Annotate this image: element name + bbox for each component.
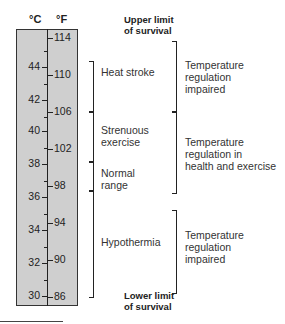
minor-tick-c xyxy=(44,181,47,182)
lower-limit-label: Lower limit of survival xyxy=(124,290,174,312)
reg-normal-line2: regulation in xyxy=(185,148,276,160)
tick-f-90 xyxy=(48,260,53,261)
celsius-header: °C xyxy=(29,13,41,25)
minor-tick-c xyxy=(44,247,47,248)
bracket-regulation-upper xyxy=(172,41,177,112)
tick-c-32 xyxy=(42,263,47,264)
label-f-114: 114 xyxy=(54,32,71,43)
minor-tick-c xyxy=(44,280,47,281)
reg-upper-line1: Temperature xyxy=(185,59,244,71)
label-f-90: 90 xyxy=(54,254,66,265)
tick-f-106 xyxy=(48,112,53,113)
regulation-upper-label: Temperature regulation impaired xyxy=(185,59,244,95)
upper-limit-line2: of survival xyxy=(124,25,174,36)
hypothermia-text: Hypothermia xyxy=(101,236,161,248)
strenuous-exercise-label: Strenuous exercise xyxy=(101,124,149,148)
heat-stroke-label: Heat stroke xyxy=(101,66,155,78)
reg-normal-line1: Temperature xyxy=(185,136,276,148)
label-c-30: 30 xyxy=(14,290,40,301)
tick-f-94 xyxy=(48,223,53,224)
tick-f-114 xyxy=(48,38,53,39)
reg-lower-line1: Temperature xyxy=(185,229,244,241)
bracket-heat-stroke xyxy=(89,61,94,112)
lower-limit-line1: Lower limit xyxy=(124,290,174,301)
label-c-36: 36 xyxy=(14,191,40,202)
minor-tick-c xyxy=(44,148,47,149)
bracket-hypothermia xyxy=(89,191,94,298)
label-c-44: 44 xyxy=(14,61,40,72)
label-c-40: 40 xyxy=(14,125,40,136)
bracket-regulation-normal xyxy=(172,112,177,194)
tick-c-40 xyxy=(42,131,47,132)
minor-tick-c xyxy=(44,84,47,85)
label-c-38: 38 xyxy=(14,158,40,169)
label-f-86: 86 xyxy=(54,291,66,302)
scale-divider xyxy=(47,29,48,306)
reg-lower-line2: regulation xyxy=(185,241,244,253)
normal-text-line1: Normal xyxy=(101,167,135,179)
reg-upper-line3: impaired xyxy=(185,83,244,95)
label-c-34: 34 xyxy=(14,224,40,235)
tick-f-86 xyxy=(48,297,53,298)
tick-c-34 xyxy=(42,230,47,231)
label-c-32: 32 xyxy=(14,257,40,268)
minor-tick-c xyxy=(44,51,47,52)
upper-limit-label: Upper limit of survival xyxy=(124,14,174,36)
lower-limit-line2: of survival xyxy=(124,301,174,312)
regulation-lower-label: Temperature regulation impaired xyxy=(185,229,244,265)
label-c-42: 42 xyxy=(14,94,40,105)
reg-normal-line3: health and exercise xyxy=(185,160,276,172)
normal-text-line2: range xyxy=(101,179,135,191)
reg-upper-line2: regulation xyxy=(185,71,244,83)
regulation-normal-label: Temperature regulation in health and exe… xyxy=(185,136,276,172)
label-f-102: 102 xyxy=(54,143,72,154)
label-f-94: 94 xyxy=(54,217,66,228)
tick-f-102 xyxy=(48,149,53,150)
label-f-106: 106 xyxy=(54,106,72,117)
reg-lower-line3: impaired xyxy=(185,253,244,265)
bracket-strenuous-exercise xyxy=(89,112,94,162)
hypothermia-label: Hypothermia xyxy=(101,236,161,248)
tick-c-30 xyxy=(42,296,47,297)
tick-c-42 xyxy=(42,100,47,101)
tick-c-44 xyxy=(42,67,47,68)
bracket-normal-range xyxy=(89,162,94,191)
heat-stroke-text: Heat stroke xyxy=(101,66,155,78)
minor-tick-c xyxy=(44,214,47,215)
tick-f-98 xyxy=(48,186,53,187)
tick-c-38 xyxy=(42,164,47,165)
fahrenheit-header: °F xyxy=(56,13,67,25)
strenuous-text-line1: Strenuous xyxy=(101,124,149,136)
tick-f-110 xyxy=(48,75,53,76)
label-f-98: 98 xyxy=(54,180,66,191)
bracket-regulation-lower xyxy=(172,210,177,294)
footnote-rule xyxy=(0,321,63,322)
normal-range-label: Normal range xyxy=(101,167,135,191)
strenuous-text-line2: exercise xyxy=(101,136,149,148)
upper-limit-line1: Upper limit xyxy=(124,14,174,25)
tick-c-36 xyxy=(42,197,47,198)
label-f-110: 110 xyxy=(54,69,71,80)
minor-tick-c xyxy=(44,117,47,118)
